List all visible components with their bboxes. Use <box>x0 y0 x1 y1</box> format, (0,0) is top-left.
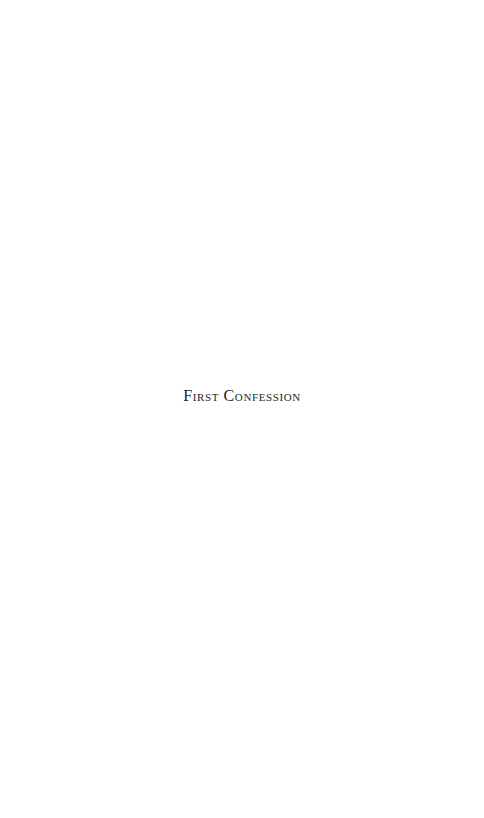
chapter-title: First Confession <box>0 386 484 406</box>
book-page: First Confession <box>0 0 484 818</box>
